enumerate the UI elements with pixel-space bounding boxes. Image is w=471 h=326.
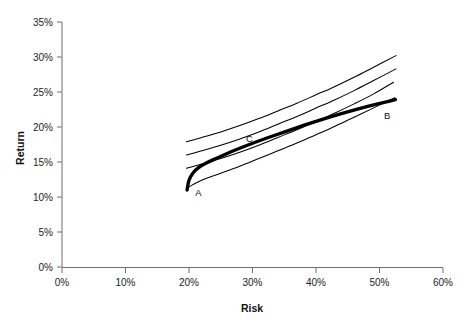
risk-return-chart: 0%5%10%15%20%25%30%35% 0%10%20%30%40%50%…	[0, 0, 471, 326]
x-tick-label: 60%	[433, 277, 453, 288]
y-tick-label: 25%	[33, 87, 53, 98]
x-tick-label: 20%	[179, 277, 199, 288]
series-indifference-curve-4	[188, 98, 394, 188]
point-label-a: A	[195, 187, 202, 198]
x-tick-label: 30%	[242, 277, 262, 288]
chart-container: 0%5%10%15%20%25%30%35% 0%10%20%30%40%50%…	[0, 0, 471, 326]
y-tick-label: 10%	[33, 192, 53, 203]
y-tick-label: 30%	[33, 52, 53, 63]
point-label-c: C	[246, 133, 253, 144]
y-tick-label: 35%	[33, 17, 53, 28]
point-label-b: B	[384, 110, 390, 121]
series-indifference-curve-3	[186, 82, 393, 168]
y-tick-label: 5%	[39, 227, 54, 238]
series-efficient-frontier	[187, 100, 395, 190]
y-tick-label: 0%	[39, 262, 54, 273]
y-axis-title: Return	[14, 131, 26, 165]
x-tick-label: 40%	[306, 277, 326, 288]
x-tick-label: 50%	[369, 277, 389, 288]
x-tick-label: 10%	[115, 277, 135, 288]
x-tick-label: 0%	[55, 277, 70, 288]
y-tick-label: 20%	[33, 122, 53, 133]
y-tick-label: 15%	[33, 157, 53, 168]
chart-series-group	[186, 56, 396, 190]
x-axis-title: Risk	[241, 302, 263, 314]
y-axis-ticks: 0%5%10%15%20%25%30%35%	[33, 17, 62, 273]
x-axis-ticks: 0%10%20%30%40%50%60%	[55, 268, 453, 288]
